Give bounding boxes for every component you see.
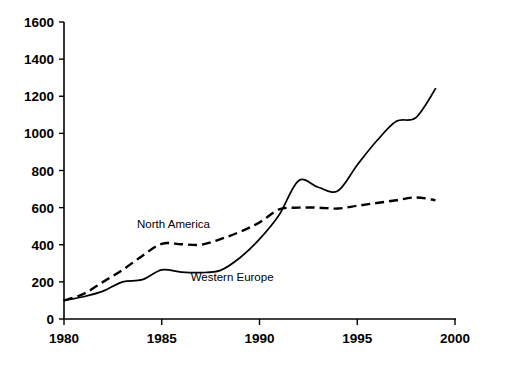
- series-annotation-label: Western Europe: [191, 271, 274, 283]
- series-annotation-label: North America: [137, 218, 210, 230]
- y-tick-label: 1200: [24, 89, 54, 104]
- y-axis-ticks: 02004006008001000120014001600: [24, 15, 64, 327]
- figure-caption: [0, 367, 505, 376]
- x-tick-label: 1985: [147, 331, 178, 346]
- y-tick-label: 1400: [24, 52, 54, 67]
- y-tick-label: 200: [31, 275, 54, 290]
- line-chart-figure: 02004006008001000120014001600 1980198519…: [0, 0, 505, 376]
- x-tick-label: 1995: [342, 331, 373, 346]
- x-tick-label: 1980: [49, 331, 79, 346]
- y-tick-label: 800: [31, 164, 54, 179]
- x-tick-label: 2000: [440, 331, 470, 346]
- y-tick-label: 600: [31, 201, 54, 216]
- series-group: [64, 89, 435, 301]
- series-annotations: North AmericaWestern Europe: [137, 218, 274, 283]
- y-tick-label: 1600: [24, 15, 54, 30]
- y-tick-label: 400: [31, 238, 54, 253]
- y-tick-label: 1000: [24, 126, 54, 141]
- x-axis-ticks: 19801985199019952000: [49, 319, 470, 346]
- series-line-western-europe: [64, 89, 435, 301]
- x-tick-label: 1990: [244, 331, 274, 346]
- chart-plot-area: 02004006008001000120014001600 1980198519…: [0, 0, 505, 376]
- y-tick-label: 0: [46, 312, 54, 327]
